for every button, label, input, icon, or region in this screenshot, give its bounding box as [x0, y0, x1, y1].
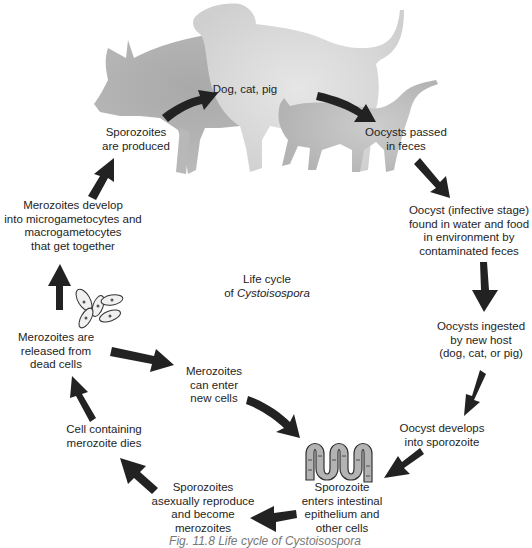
- arrow-develops-to-enters: [384, 448, 424, 478]
- merozoites-icon: [72, 288, 128, 330]
- stage-label-merozoites-enter: Merozoites can enter new cells: [174, 365, 254, 406]
- arrow-hosts-to-oocysts-passed: [316, 92, 376, 122]
- arrow-ingested-to-develops: [464, 370, 486, 416]
- stage-label-oocysts-passed: Oocysts passed in feces: [356, 126, 456, 153]
- stage-label-oocysts-ingested: Oocysts ingested by new host (dog, cat, …: [430, 320, 532, 361]
- stage-label-merozoites-develop: Merozoites develop into microgametocytes…: [4, 199, 142, 253]
- arrow-released-to-enter: [110, 347, 174, 372]
- arrow-environment-to-ingested: [472, 262, 498, 312]
- diagram-title: Life cycle of Cystoisospora: [222, 273, 312, 300]
- arrow-cell-dies-to-released: [70, 376, 96, 422]
- stage-label-oocyst-environment: Oocyst (infective stage) found in water …: [406, 204, 532, 258]
- stage-label-cell-dies: Cell containing merozoite dies: [56, 423, 152, 450]
- stage-label-sporozoites-reproduce: Sporozoites asexually reproduce and beco…: [148, 481, 258, 535]
- stage-label-sporozoite-enters: Sporozoite enters intestinal epithelium …: [294, 481, 390, 535]
- stage-label-sporozoites-produced: Sporozoites are produced: [86, 126, 186, 153]
- intestine-icon: [300, 436, 380, 486]
- stage-label-oocyst-develops: Oocyst develops into sporozoite: [388, 422, 496, 449]
- arrow-released-to-develop: [48, 264, 71, 310]
- arrow-develop-to-produced: [88, 158, 114, 200]
- stage-label-merozoites-released: Merozoites are released from dead cells: [8, 331, 104, 372]
- arrow-passed-to-environment: [414, 158, 450, 198]
- hosts-label: Dog, cat, pig: [190, 83, 300, 97]
- arrow-enter-to-intestine: [246, 396, 300, 438]
- diagram-title-line2: of Cystoisospora: [222, 287, 312, 301]
- figure-caption: Fig. 11.8 Life cycle of Cystoisospora: [130, 534, 400, 548]
